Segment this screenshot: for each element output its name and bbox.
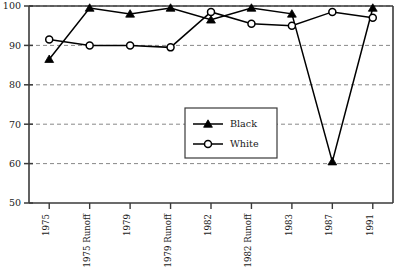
x-tick-label-8: 1991 (365, 214, 375, 236)
line-chart: 5060708090100 19751975 Runoff19791979 Ru… (0, 0, 408, 273)
legend-label-black: Black (230, 118, 257, 129)
data-point-white-1 (86, 42, 93, 49)
x-tick-label-4: 1982 (203, 214, 213, 236)
x-tick-label-7: 1987 (324, 214, 334, 236)
chart-legend[interactable] (185, 108, 277, 158)
data-point-white-5 (248, 20, 255, 27)
data-point-white-2 (127, 42, 134, 49)
y-tick-label-100: 100 (3, 0, 21, 11)
legend-label-white: White (230, 138, 259, 149)
legend-frame (185, 108, 277, 158)
y-tick-label-70: 70 (9, 119, 21, 130)
y-tick-label-50: 50 (9, 197, 21, 208)
chart-figure: 5060708090100 19751975 Runoff19791979 Ru… (0, 0, 408, 273)
data-point-white-0 (46, 36, 53, 43)
x-tick-label-6: 1983 (284, 214, 294, 236)
data-point-white-6 (288, 22, 295, 29)
x-tick-label-5: 1982 Runoff (243, 213, 253, 267)
data-point-white-4 (208, 8, 215, 15)
x-tick-label-2: 1979 (122, 214, 132, 236)
x-tick-label-1: 1975 Runoff (82, 213, 92, 267)
legend-marker-white (205, 141, 212, 148)
y-tick-label-60: 60 (9, 158, 21, 169)
data-point-white-3 (167, 44, 174, 51)
data-point-white-8 (369, 14, 376, 21)
x-tick-label-3: 1979 Runoff (163, 213, 173, 267)
data-point-white-7 (329, 8, 336, 15)
y-tick-label-80: 80 (9, 79, 21, 90)
y-tick-label-90: 90 (9, 40, 21, 51)
x-tick-label-0: 1975 (41, 214, 51, 236)
